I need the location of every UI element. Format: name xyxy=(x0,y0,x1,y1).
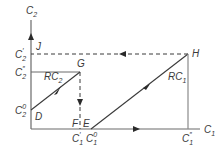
point-label-g: G xyxy=(77,58,85,69)
point-label-f: F xyxy=(72,118,79,129)
y-tick-c2-prime: C2′ xyxy=(15,47,26,62)
x-tick-c1-prime: C1′ xyxy=(72,131,83,146)
y-tick-c2-double-prime: C2″ xyxy=(15,65,26,80)
y-axis-label: C2 xyxy=(26,5,37,18)
curve-label-rc1: RC1 xyxy=(168,71,186,84)
rc1-line xyxy=(91,54,188,129)
y-axis xyxy=(28,20,34,129)
x-axis xyxy=(31,126,200,132)
reaction-curve-diagram: C2 C1 C2′ C2″ C20 C1′ C10 C1″ J G H D F … xyxy=(0,0,224,150)
y-axis-arrow-icon xyxy=(28,33,34,40)
x-axis-label: C1 xyxy=(204,124,215,137)
point-label-e: E xyxy=(83,118,90,129)
rc1-arrow-icon xyxy=(143,84,150,90)
point-label-j: J xyxy=(35,41,42,52)
arrow-down-icon xyxy=(77,99,83,106)
y-tick-c2-zero: C20 xyxy=(15,103,26,118)
x-axis-arrow-icon xyxy=(133,126,140,132)
point-label-h: H xyxy=(192,48,200,59)
x-tick-c1-double-prime: C1″ xyxy=(182,131,193,146)
point-label-d: D xyxy=(35,111,42,122)
arrow-left-icon xyxy=(119,51,126,57)
curve-label-rc2: RC2 xyxy=(44,71,62,84)
x-tick-c1-zero: C10 xyxy=(86,131,97,146)
